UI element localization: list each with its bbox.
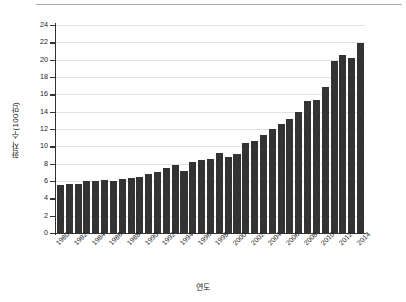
- bar: [198, 160, 205, 233]
- bar: [119, 179, 126, 233]
- bar: [233, 154, 240, 233]
- bar: [110, 181, 117, 233]
- bar: [260, 135, 267, 233]
- bar: [75, 184, 82, 233]
- bar: [189, 162, 196, 233]
- y-axis-tick-label: 16: [28, 90, 48, 97]
- bar: [304, 101, 311, 233]
- y-axis-tick-label: 20: [28, 56, 48, 63]
- bar: [92, 181, 99, 233]
- x-axis-tick-labels: 1980198219841986198819901992199419961998…: [56, 236, 365, 276]
- y-axis-tick-label: 10: [28, 142, 48, 149]
- bar: [57, 185, 64, 233]
- y-axis-tick-label: 2: [28, 212, 48, 219]
- y-axis-title-label: 환자 수(100만): [10, 102, 21, 158]
- bar: [278, 124, 285, 233]
- bar: [207, 159, 214, 233]
- bar: [331, 61, 338, 233]
- bar: [269, 129, 276, 233]
- y-axis-title: 환자 수(100만): [8, 0, 22, 260]
- y-axis-tick-label: 6: [28, 177, 48, 184]
- y-axis-tick-labels: 242220181614121086420: [26, 0, 48, 302]
- bar: [154, 172, 161, 233]
- top-rule-divider: [36, 4, 402, 5]
- bar: [172, 165, 179, 233]
- bar: [242, 143, 249, 233]
- y-axis-tick-label: 0: [28, 229, 48, 236]
- y-axis-tick-label: 4: [28, 194, 48, 201]
- bar: [101, 180, 108, 233]
- bar: [357, 43, 364, 233]
- bar: [66, 184, 73, 233]
- plot-area: [56, 25, 365, 233]
- bar: [145, 174, 152, 233]
- bar: [313, 100, 320, 233]
- y-axis-tick-label: 22: [28, 38, 48, 45]
- x-axis-title: 연도: [0, 281, 406, 292]
- bar: [83, 181, 90, 233]
- bar: [348, 58, 355, 233]
- bar: [286, 119, 293, 233]
- bar: [322, 87, 329, 233]
- bar: [180, 171, 187, 233]
- y-axis-line: [55, 23, 56, 235]
- bar: [225, 157, 232, 233]
- bar: [136, 177, 143, 233]
- bar: [163, 168, 170, 233]
- y-axis-tick-label: 24: [28, 21, 48, 28]
- bar: [251, 141, 258, 233]
- y-axis-tick-label: 14: [28, 108, 48, 115]
- y-axis-tick-label: 8: [28, 160, 48, 167]
- y-axis-tick-label: 12: [28, 125, 48, 132]
- bar: [216, 153, 223, 233]
- bar: [128, 178, 135, 233]
- bar-series: [56, 25, 365, 233]
- bar: [339, 55, 346, 233]
- y-axis-tick-label: 18: [28, 73, 48, 80]
- bar-chart-figure: 환자 수(100만) 242220181614121086420 1980198…: [0, 0, 406, 302]
- bar: [295, 112, 302, 233]
